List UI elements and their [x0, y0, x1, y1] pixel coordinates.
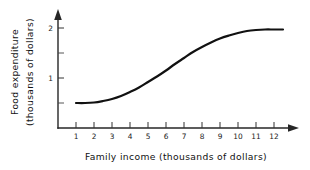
x-axis-title: Family income (thousands of dollars) [85, 151, 267, 162]
y-axis-title-line1: Food expenditure [9, 29, 20, 115]
x-tick-label-7: 7 [182, 132, 187, 141]
x-tick-label-10: 10 [233, 132, 243, 141]
up-arrow-icon [54, 9, 62, 20]
x-tick-label-5: 5 [146, 132, 151, 141]
right-arrow-icon [288, 124, 299, 132]
x-tick-label-6: 6 [164, 132, 169, 141]
chart-container: 1 2 1 2 3 4 5 6 7 8 9 10 [0, 0, 310, 170]
x-tick-label-4: 4 [128, 132, 133, 141]
x-axis-tick-labels: 1 2 3 4 5 6 7 8 9 10 11 12 [74, 132, 279, 141]
data-curve [76, 29, 283, 103]
y-tick-label-1: 1 [48, 74, 53, 83]
y-axis-ticks [58, 28, 64, 103]
y-axis-title-line2: (thousands of dollars) [24, 18, 35, 126]
x-tick-label-8: 8 [200, 132, 205, 141]
x-tick-label-11: 11 [251, 132, 261, 141]
x-tick-label-1: 1 [74, 132, 79, 141]
x-tick-label-3: 3 [110, 132, 115, 141]
y-tick-label-2: 2 [48, 24, 53, 33]
x-axis-ticks [76, 122, 274, 128]
x-tick-label-9: 9 [218, 132, 223, 141]
x-tick-label-12: 12 [269, 132, 278, 141]
x-tick-label-2: 2 [92, 132, 97, 141]
food-expenditure-line-chart: 1 2 1 2 3 4 5 6 7 8 9 10 [0, 0, 310, 170]
